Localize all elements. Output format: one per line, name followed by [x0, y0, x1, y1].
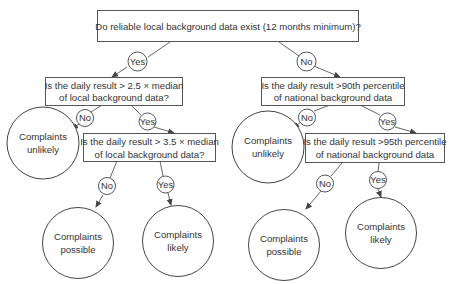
- right-q1-line2: of national background data: [274, 92, 393, 103]
- no-label-text: No: [301, 112, 313, 123]
- edge-left-q1-to-yes: [131, 105, 141, 115]
- no-label-text: No: [101, 180, 113, 191]
- edge-right-q2-to-yes: [378, 163, 379, 171]
- outcome-line1: Complaints: [19, 131, 67, 142]
- right-outcome-unlikely: Complaints unlikely: [232, 111, 304, 183]
- left-outcome-unlikely: Complaints unlikely: [7, 107, 79, 179]
- edge-root-to-no: [279, 42, 299, 56]
- left-q1-line2: of local background data?: [59, 92, 169, 103]
- left-outcome-likely: Complaints likely: [143, 206, 214, 277]
- yes-label-text: Yes: [370, 174, 386, 185]
- outcome-line2: possible: [266, 246, 301, 257]
- outcome-line2: unlikely: [252, 148, 284, 159]
- right-q2-line1: Is the daily result >95th percentile: [303, 136, 446, 147]
- edge-right-q1-to-yes: [360, 105, 380, 115]
- edge-yes-to-left-q2: [154, 127, 174, 133]
- yes-label-text: Yes: [130, 56, 146, 67]
- yes-label-text: Yes: [140, 116, 156, 127]
- root-question-node: Do reliable local background data exist …: [95, 11, 361, 42]
- left-outcome-possible: Complaints possible: [43, 208, 114, 279]
- edge-right-q2-to-no: [331, 163, 342, 176]
- right-q1-no-label: No: [299, 109, 316, 126]
- edge-left-q2-to-no: [110, 161, 117, 178]
- outcome-line1: Complaints: [244, 135, 292, 146]
- edge-yes-to-right-q2: [395, 127, 416, 133]
- right-outcome-possible: Complaints possible: [249, 210, 320, 281]
- left-q2-line2: of local background data?: [95, 149, 205, 160]
- right-outcome-likely: Complaints likely: [346, 198, 417, 269]
- right-q1-yes-label: Yes: [379, 113, 396, 130]
- left-q1-node: Is the daily result > 2.5 × median of lo…: [45, 78, 184, 106]
- left-q1-no-label: No: [77, 110, 94, 127]
- right-q2-line2: of national background data: [316, 149, 435, 160]
- edge-left-q1-to-no: [91, 105, 102, 112]
- right-q1-line1: Is the daily result >90th percentile: [261, 80, 404, 91]
- left-q1-yes-label: Yes: [139, 113, 156, 130]
- outcome-line1: Complaints: [260, 233, 308, 244]
- right-q2-yes-label: Yes: [370, 172, 387, 189]
- edge-yes-to-left-q1: [112, 67, 127, 77]
- edge-root-to-yes: [148, 42, 170, 57]
- no-label-text: No: [79, 112, 91, 123]
- yes-label-text: Yes: [380, 116, 396, 127]
- outcome-line1: Complaints: [357, 221, 405, 232]
- decision-tree-diagram: Do reliable local background data exist …: [0, 0, 455, 284]
- edge-yes-to-left-likely: [168, 193, 171, 205]
- outcome-line2: likely: [167, 242, 189, 253]
- outcome-line2: unlikely: [27, 144, 59, 155]
- edge-no-to-right-possible: [306, 191, 321, 209]
- left-q2-no-label: No: [99, 178, 116, 195]
- yes-label-text: Yes: [158, 179, 174, 190]
- left-q2-line1: Is the daily result > 3.5 × median: [80, 136, 219, 147]
- edge-left-q2-to-yes: [160, 161, 163, 176]
- outcome-line2: likely: [370, 234, 392, 245]
- edge-yes-to-right-likely: [378, 189, 381, 197]
- no-label-text: No: [301, 56, 313, 67]
- outcome-line1: Complaints: [54, 231, 102, 242]
- left-q1-line1: Is the daily result > 2.5 × median: [45, 80, 184, 91]
- root-no-label: No: [297, 52, 316, 71]
- left-q2-yes-label: Yes: [157, 176, 174, 193]
- right-q2-no-label: No: [317, 175, 334, 192]
- edge-no-to-right-q1: [314, 66, 340, 77]
- outcome-line2: possible: [60, 244, 95, 255]
- right-q2-node: Is the daily result >95th percentile of …: [303, 134, 446, 163]
- root-yes-label: Yes: [128, 52, 147, 71]
- outcome-line1: Complaints: [154, 229, 202, 240]
- right-q1-node: Is the daily result >90th percentile of …: [261, 78, 404, 106]
- root-question-text: Do reliable local background data exist …: [95, 21, 361, 32]
- left-q2-node: Is the daily result > 3.5 × median of lo…: [80, 134, 219, 162]
- edge-no-to-left-possible: [96, 195, 103, 207]
- no-label-text: No: [319, 178, 331, 189]
